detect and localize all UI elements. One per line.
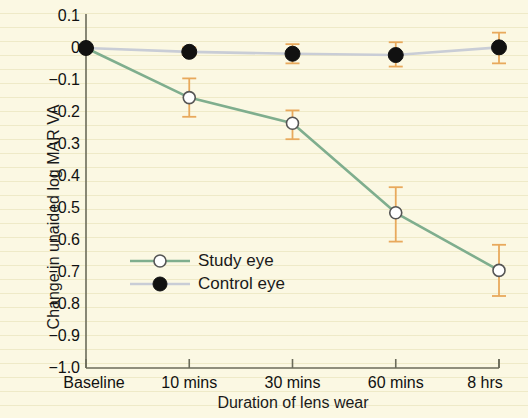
x-axis-tick-label: 60 mins (368, 374, 424, 392)
y-axis-title: Change in unaided log MAR VA (45, 67, 63, 367)
legend-marker-swatch (154, 255, 166, 267)
data-point-marker (182, 44, 197, 59)
x-axis-tick-label: Baseline (63, 374, 124, 392)
legend-label-study-eye: Study eye (198, 251, 274, 271)
x-axis-tick-label: 10 mins (161, 374, 217, 392)
y-axis-tick-label: 0.1 (12, 7, 80, 25)
data-point-marker (79, 41, 94, 56)
data-point-marker (493, 264, 505, 276)
series-line-study-eye (86, 48, 499, 270)
x-axis-title: Duration of lens wear (86, 394, 500, 412)
data-point-marker (390, 207, 402, 219)
x-axis-tick-label: 30 mins (264, 374, 320, 392)
y-axis-tick-label: 0 (12, 39, 80, 57)
data-point-marker (492, 40, 507, 55)
chart-figure: 0.10−0.1−0.2−0.3−0.4−0.5−0.6−0.7−0.8−0.9… (0, 0, 528, 418)
data-point-marker (287, 117, 299, 129)
x-axis-tick-label: 8 hrs (467, 374, 503, 392)
data-point-marker (285, 46, 300, 61)
data-point-marker (183, 92, 195, 104)
legend-label-control-eye: Control eye (198, 274, 285, 294)
legend-marker-swatch (153, 277, 167, 291)
data-point-marker (388, 48, 403, 63)
